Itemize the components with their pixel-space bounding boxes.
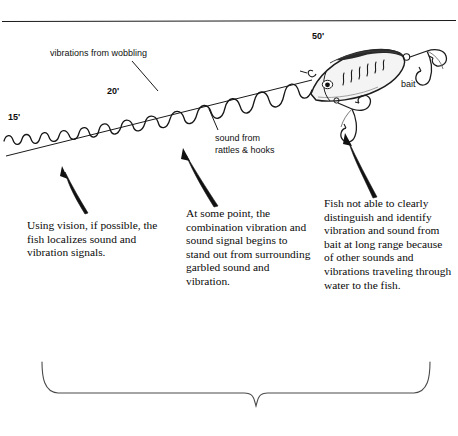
callout-vibrations-label: vibrations from wobbling [50, 48, 147, 59]
summary-brace [42, 362, 430, 406]
horizontal-divider [2, 21, 456, 22]
crankbait-lure-illustration [300, 49, 446, 142]
figure-canvas: 15' 20' 50' vibrations from wobbling sou… [0, 0, 458, 436]
callout-sound-line2: rattles & hooks [215, 145, 275, 156]
distance-marker-50: 50' [312, 31, 324, 41]
callout-bait-label: bait [401, 79, 416, 90]
distance-marker-20: 20' [107, 86, 119, 96]
arrow-to-midrange-zone [181, 148, 218, 207]
vibration-wave [4, 84, 312, 144]
leader-vibrations [132, 61, 158, 91]
belly-treble-hook [334, 95, 371, 142]
arrow-to-bait-zone [343, 133, 377, 198]
leader-sound [209, 109, 218, 130]
caption-combination-signal: At some point, the combination vibration… [186, 207, 314, 289]
caption-long-range: Fish not able to clearly distinguish and… [324, 197, 454, 292]
arrow-to-vision-zone [60, 166, 88, 214]
callout-sound-line1: sound from [215, 133, 260, 144]
caption-vision: Using vision, if possible, the fish loca… [27, 219, 167, 260]
distance-marker-15: 15' [8, 112, 20, 122]
